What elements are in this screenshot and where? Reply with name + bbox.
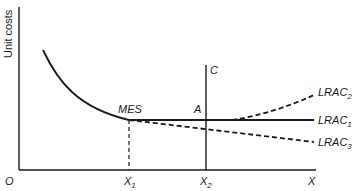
x2-tick-label: X2 — [199, 175, 212, 190]
x-axis-end-label: X — [307, 175, 316, 187]
lrac2-dashed-curve — [232, 95, 314, 120]
lrac1-label: LRAC1 — [318, 114, 352, 129]
y-axis-label: Unit costs — [2, 9, 14, 58]
mes-label: MES — [118, 103, 143, 115]
point-a-label: A — [193, 103, 201, 115]
origin-label: O — [5, 175, 14, 187]
cost-curve-diagram: Unit costs O X X1 X2 MES A C LRAC2 LRAC1… — [0, 0, 354, 191]
lrac2-label: LRAC2 — [318, 86, 352, 101]
c-label: C — [210, 64, 218, 76]
lrac-declining-curve — [43, 50, 129, 120]
lrac3-label: LRAC3 — [318, 136, 352, 151]
lrac3-dashed-line — [129, 120, 314, 142]
x1-tick-label: X1 — [123, 175, 136, 190]
